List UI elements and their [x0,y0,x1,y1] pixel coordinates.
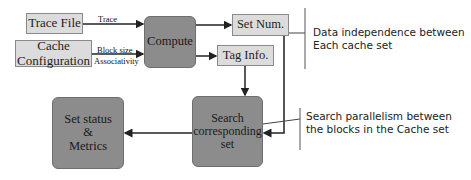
set-status-metrics-node: Set status & Metrics [52,97,124,169]
compute-label: Compute [147,35,193,49]
search-corresponding-set-node: Search corresponding set [192,96,263,167]
search-parallelism-line1: Search parallelism between [306,110,452,123]
edge-label-associativity: Associativity [94,56,139,66]
set-num-node: Set Num. [232,14,289,36]
tag-info-label: Tag Info. [223,49,269,63]
edge-label-trace: Trace [98,14,117,24]
set-num-label: Set Num. [237,18,284,32]
search-parallelism-line2: the blocks in the Cache set [306,123,452,136]
cache-config-line1: Cache [37,39,69,53]
data-independence-line2: Each cache set [313,39,465,52]
cache-simulation-diagram: Trace File Cache Configuration Trace Blo… [0,0,471,180]
trace-file-node: Trace File [26,13,83,34]
compute-node: Compute [144,16,196,68]
edge-label-block-size: Block size [97,45,133,55]
data-independence-annotation: Data independence between Each cache set [313,26,465,52]
set-status-line1: Set status [64,113,112,127]
cache-config-line2: Configuration [17,54,90,68]
search-line3: set [221,138,234,151]
set-status-line3: Metrics [69,140,107,154]
tag-info-node: Tag Info. [217,45,274,66]
data-independence-line1: Data independence between [313,26,465,39]
trace-file-label: Trace File [28,16,81,30]
search-parallelism-annotation: Search parallelism between the blocks in… [306,110,452,136]
set-status-line2: & [83,126,93,140]
cache-configuration-node: Cache Configuration [15,40,92,67]
